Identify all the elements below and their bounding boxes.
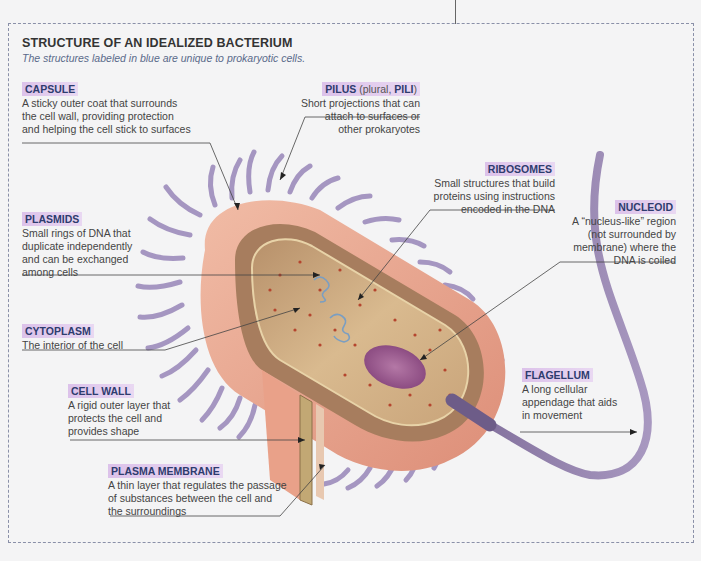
flagellum-description: A long cellular appendage that aids in m… [522,383,622,422]
cell-wall-heading: CELL WALL [68,384,134,398]
cytoplasm-heading: CYTOPLASM [22,324,94,338]
nucleoid-description: A “nucleus-like” region (not surrounded … [568,215,676,267]
pilus-description: Short projections that can attach to sur… [300,97,420,136]
label-nucleoid: NUCLEOID A “nucleus-like” region (not su… [568,200,676,267]
label-pilus: PILUS (plural, PILI) Short projections t… [300,82,420,136]
pilus-heading: PILUS (plural, PILI) [322,82,420,96]
cytoplasm-description: The interior of the cell [22,339,172,352]
plasma-membrane-heading: PLASMA MEMBRANE [108,464,223,478]
flagellum-heading: FLAGELLUM [522,368,593,382]
plasmids-heading: PLASMIDS [22,212,82,226]
label-plasmids: PLASMIDS Small rings of DNA that duplica… [22,212,137,279]
nucleoid-heading: NUCLEOID [615,200,676,214]
label-capsule: CAPSULE A sticky outer coat that surroun… [22,82,192,136]
capsule-heading: CAPSULE [22,82,78,96]
capsule-description: A sticky outer coat that surrounds the c… [22,97,192,136]
cell-wall-description: A rigid outer layer that protects the ce… [68,399,183,438]
plasma-membrane-description: A thin layer that regulates the passage … [108,479,288,518]
label-cytoplasm: CYTOPLASM The interior of the cell [22,324,172,352]
plasmids-description: Small rings of DNA that duplicate indepe… [22,227,137,279]
label-flagellum: FLAGELLUM A long cellular appendage that… [522,368,622,422]
label-plasma-membrane: PLASMA MEMBRANE A thin layer that regula… [108,464,288,518]
label-cell-wall: CELL WALL A rigid outer layer that prote… [68,384,183,438]
ribosomes-description: Small structures that build proteins usi… [405,177,555,216]
label-ribosomes: RIBOSOMES Small structures that build pr… [405,162,555,216]
ribosomes-heading: RIBOSOMES [485,162,555,176]
